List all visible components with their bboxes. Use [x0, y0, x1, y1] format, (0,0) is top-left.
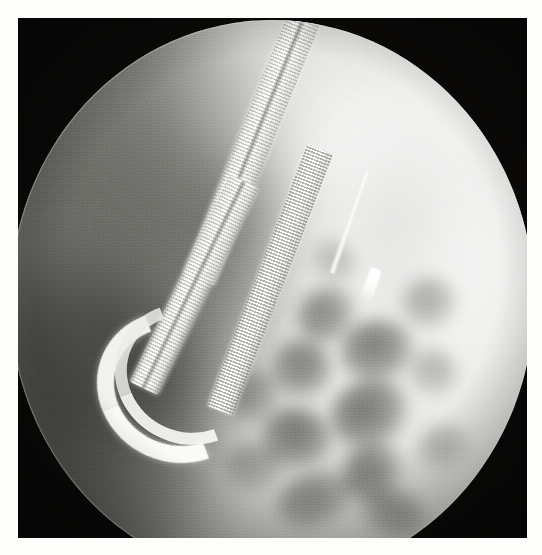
endoscope-lumen-line [195, 20, 314, 280]
bowel-gas-loop [320, 367, 420, 460]
bowel-gas-loop [217, 358, 292, 431]
bowel-gas-loop [399, 340, 466, 406]
bowel-gas-loop [223, 443, 287, 493]
endoscope-bending-section-texture [207, 144, 333, 415]
endoscope-returning-limb [207, 144, 333, 415]
endoscope-rib-texture [129, 175, 259, 396]
endoscope-retroflexion-outer-arc [72, 286, 281, 489]
field-contents [18, 20, 527, 538]
endoscope-layer [18, 20, 527, 538]
plate-vignette [18, 18, 527, 538]
bowel-gas-loop [303, 231, 365, 292]
endoscope-upper-shaft [183, 20, 327, 285]
bowel-gas-loop [413, 418, 474, 473]
endoscope-descending-limb [129, 175, 259, 396]
right-flank-lucency [310, 60, 527, 480]
upper-field-lucency [160, 20, 520, 190]
endoscope-lumen-line [140, 180, 248, 390]
endoscope-rib-texture [183, 20, 327, 285]
needle-device-tip [361, 267, 381, 299]
bowel-gas-loop [329, 430, 414, 514]
endoscope-retroflexion-inner-arc [92, 280, 286, 469]
page-background [0, 0, 542, 555]
needle-device-shaft [329, 170, 371, 274]
bowel-gas-loop [269, 461, 360, 537]
bowel-gas-loop [336, 315, 418, 387]
collimator-rim [18, 20, 527, 538]
soft-tissue-lower-left [18, 270, 220, 538]
bowel-gas-loop [256, 401, 338, 475]
soft-tissue-left-density [18, 20, 280, 440]
spine-density-band [340, 110, 460, 390]
bowel-gas-loop [401, 277, 458, 330]
bowel-gas-loop [286, 274, 368, 356]
bowel-gas-loop [356, 481, 434, 538]
collimated-field-of-view [18, 20, 527, 538]
radiograph-plate [18, 18, 527, 538]
bowel-gas-loop [262, 329, 343, 409]
